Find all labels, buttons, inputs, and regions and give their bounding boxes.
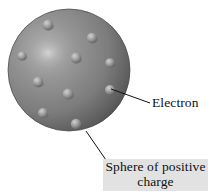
sphere-label-line-1: Sphere of positive [104, 160, 207, 175]
electron-label: Electron [152, 96, 199, 111]
plum-pudding-model-figure: Electron Sphere of positive charge [0, 0, 210, 196]
sphere-highlight [29, 37, 67, 69]
positive-charge-sphere [8, 9, 130, 131]
sphere-of-positive-charge-label: Sphere of positive charge [103, 159, 208, 191]
sphere-leader-line [86, 131, 106, 160]
sphere-label-line-2: charge [104, 175, 207, 190]
